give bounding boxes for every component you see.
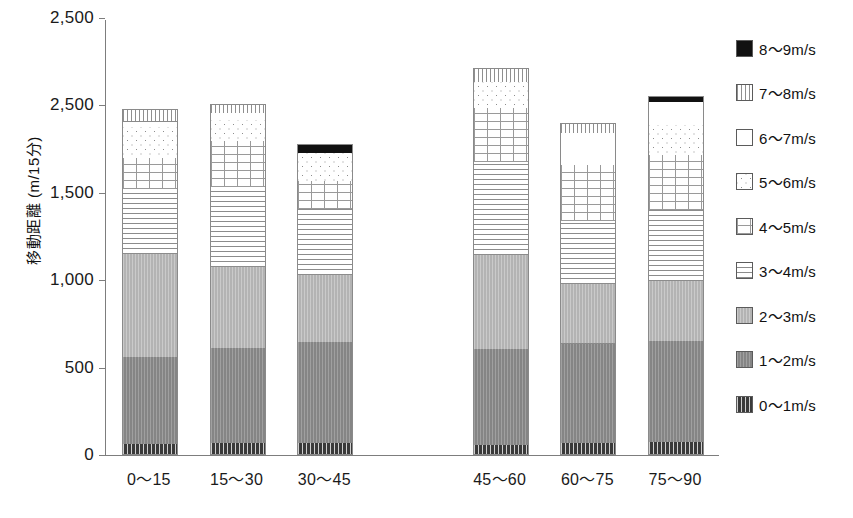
- legend-item-6-7m-s[interactable]: 6～7m/s: [736, 115, 851, 160]
- y-tick-label: 1,500: [50, 183, 94, 203]
- legend-item-4-5m-s[interactable]: 4～5m/s: [736, 204, 851, 249]
- bar-segment-5-6m-s[interactable]: [297, 152, 353, 181]
- legend-item-2-3m-s[interactable]: 2～3m/s: [736, 293, 851, 338]
- bar-2[interactable]: [210, 105, 266, 455]
- bar-segment-2-3m-s[interactable]: [297, 274, 353, 341]
- bar-segment-1-2m-s[interactable]: [297, 341, 353, 443]
- legend-label: 0～1m/s: [759, 394, 816, 415]
- legend-label: 6～7m/s: [759, 127, 816, 148]
- vertical-stripe-swatch: [736, 84, 753, 101]
- x-axis-label-4: 45～60: [455, 466, 545, 490]
- legend-label: 8～9m/s: [759, 38, 816, 59]
- bar-segment-0-1m-s[interactable]: [648, 441, 704, 455]
- y-tick-mark: [99, 193, 105, 194]
- bar-segment-5-6m-s[interactable]: [210, 119, 266, 140]
- bar-segment-7-8m-s[interactable]: [122, 109, 178, 121]
- legend-item-1-2m-s[interactable]: 1～2m/s: [736, 338, 851, 383]
- bar-segment-8-9m-s[interactable]: [648, 96, 704, 102]
- bar-segment-1-2m-s[interactable]: [560, 343, 616, 443]
- bar-segment-8-9m-s[interactable]: [297, 144, 353, 153]
- bar-segment-6-7m-s[interactable]: [560, 132, 616, 165]
- legend-item-8-9m-s[interactable]: 8～9m/s: [736, 26, 851, 71]
- y-tick-label: 2,500: [50, 95, 94, 115]
- bar-segment-0-1m-s[interactable]: [210, 442, 266, 455]
- bar-segment-5-6m-s[interactable]: [648, 124, 704, 154]
- bar-segment-2-3m-s[interactable]: [648, 280, 704, 341]
- y-tick-mark: [99, 455, 105, 456]
- bar-segment-7-8m-s[interactable]: [560, 123, 616, 132]
- bar-segment-2-3m-s[interactable]: [560, 283, 616, 343]
- bar-segment-4-5m-s[interactable]: [648, 154, 704, 210]
- y-tick-mark: [99, 18, 105, 19]
- bar-segment-3-4m-s[interactable]: [210, 186, 266, 267]
- legend-label: 2～3m/s: [759, 305, 816, 326]
- bar-group: [106, 18, 720, 455]
- bar-segment-3-4m-s[interactable]: [297, 208, 353, 275]
- y-tick-mark: [99, 368, 105, 369]
- bar-segment-0-1m-s[interactable]: [473, 444, 529, 455]
- bar-segment-1-2m-s[interactable]: [648, 340, 704, 442]
- x-axis-label-3: 30～45: [279, 466, 369, 490]
- chart-legend: 8～9m/s7～8m/s6～7m/s5～6m/s4～5m/s3～4m/s2～3m…: [736, 26, 851, 427]
- bar-segment-0-1m-s[interactable]: [297, 442, 353, 455]
- legend-label: 7～8m/s: [759, 82, 816, 103]
- bar-segment-7-8m-s[interactable]: [210, 104, 266, 113]
- y-tick-label: 1,000: [50, 270, 94, 290]
- legend-item-7-8m-s[interactable]: 7～8m/s: [736, 71, 851, 116]
- bar-6[interactable]: [648, 97, 704, 455]
- bar-segment-1-2m-s[interactable]: [210, 347, 266, 443]
- y-tick-label: 2,500: [50, 8, 94, 28]
- bar-segment-2-3m-s[interactable]: [122, 253, 178, 356]
- bar-segment-0-1m-s[interactable]: [122, 443, 178, 455]
- bar-segment-6-7m-s[interactable]: [648, 101, 704, 125]
- x-axis-label-2: 15～30: [192, 466, 282, 490]
- bar-4[interactable]: [473, 69, 529, 455]
- stacked-bar-chart: 移動距離 (m/15分) 2,5002,5001,5001,0005000 0～…: [0, 0, 853, 518]
- bar-segment-4-5m-s[interactable]: [473, 107, 529, 162]
- bar-segment-1-2m-s[interactable]: [122, 356, 178, 444]
- bar-5[interactable]: [560, 124, 616, 455]
- y-axis-title: 移動距離 (m/15分): [22, 81, 43, 321]
- bar-segment-1-2m-s[interactable]: [473, 348, 529, 445]
- x-axis-label-6: 75～90: [630, 466, 720, 490]
- bar-segment-4-5m-s[interactable]: [122, 157, 178, 189]
- white-swatch: [736, 129, 753, 146]
- plot-area: 2,5002,5001,5001,0005000: [105, 18, 720, 458]
- bar-segment-3-4m-s[interactable]: [122, 188, 178, 254]
- solid-black-swatch: [736, 40, 753, 57]
- x-axis-label-5: 60～75: [542, 466, 632, 490]
- bar-3[interactable]: [297, 145, 353, 455]
- dots-swatch: [736, 173, 753, 190]
- bar-segment-5-6m-s[interactable]: [473, 81, 529, 108]
- bar-segment-0-1m-s[interactable]: [560, 442, 616, 455]
- bar-segment-2-3m-s[interactable]: [210, 266, 266, 347]
- bar-segment-4-5m-s[interactable]: [560, 164, 616, 221]
- y-tick-label: 500: [65, 357, 94, 377]
- bar-segment-2-3m-s[interactable]: [473, 254, 529, 348]
- bar-1[interactable]: [122, 110, 178, 455]
- legend-label: 1～2m/s: [759, 349, 816, 370]
- legend-label: 5～6m/s: [759, 171, 816, 192]
- bar-segment-4-5m-s[interactable]: [297, 180, 353, 209]
- legend-label: 4～5m/s: [759, 216, 816, 237]
- legend-item-0-1m-s[interactable]: 0～1m/s: [736, 382, 851, 427]
- bar-segment-3-4m-s[interactable]: [648, 209, 704, 281]
- bar-segment-6-7m-s[interactable]: [210, 112, 266, 120]
- bar-segment-3-4m-s[interactable]: [560, 220, 616, 284]
- legend-item-3-4m-s[interactable]: 3～4m/s: [736, 249, 851, 294]
- horizontal-line-swatch: [736, 262, 753, 279]
- bar-segment-7-8m-s[interactable]: [473, 68, 529, 82]
- medium-gray-swatch: [736, 351, 753, 368]
- y-tick-mark: [99, 105, 105, 106]
- legend-label: 3～4m/s: [759, 260, 816, 281]
- bar-segment-5-6m-s[interactable]: [122, 126, 178, 158]
- bar-segment-3-4m-s[interactable]: [473, 161, 529, 255]
- x-axis-line: [105, 455, 719, 456]
- bar-segment-4-5m-s[interactable]: [210, 140, 266, 187]
- brick-swatch: [736, 218, 753, 235]
- y-tick-mark: [99, 280, 105, 281]
- light-gray-swatch: [736, 307, 753, 324]
- x-axis-labels: 0～1515～3030～4545～6060～7575～90: [105, 466, 720, 496]
- legend-item-5-6m-s[interactable]: 5～6m/s: [736, 160, 851, 205]
- y-tick-label: 0: [84, 445, 94, 465]
